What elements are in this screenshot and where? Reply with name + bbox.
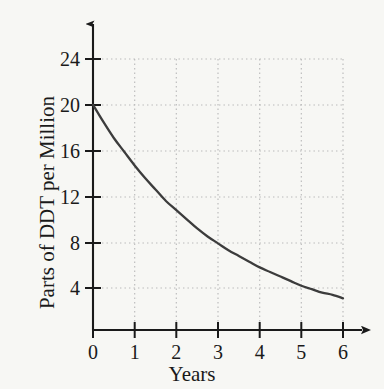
y-axis-label: Parts of DDT per Million (35, 73, 60, 333)
ytick-label-24: 24 (36, 49, 80, 69)
decay-curve (93, 105, 343, 299)
x-axis-label: Years (0, 362, 384, 387)
xtick-label-3: 3 (213, 342, 223, 362)
xtick-label-6: 6 (338, 342, 348, 362)
xtick-label-0: 0 (88, 342, 98, 362)
xtick-label-5: 5 (296, 342, 306, 362)
xtick-label-2: 2 (171, 342, 181, 362)
xtick-label-4: 4 (255, 342, 265, 362)
ddt-decay-chart: 24 20 16 12 8 4 0 1 2 3 4 5 6 Parts of D… (0, 0, 384, 389)
xtick-label-1: 1 (130, 342, 140, 362)
